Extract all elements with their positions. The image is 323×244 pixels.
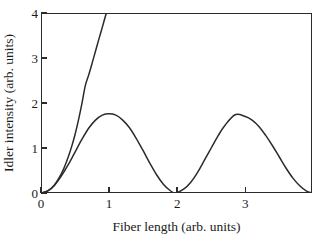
y-tick-4	[41, 12, 47, 13]
x-tick-1	[108, 187, 109, 193]
curve-exponential-gain	[41, 13, 106, 193]
chart-figure: 012301234 Fiber length (arb. units) Idle…	[0, 0, 323, 244]
x-tick-label-2: 2	[174, 197, 181, 210]
y-axis-label-wrapper: Idler intensity (arb. units)	[0, 13, 18, 193]
x-tick-label-1: 1	[106, 197, 113, 210]
x-axis-label: Fiber length (arb. units)	[41, 219, 312, 235]
x-tick-label-0: 0	[38, 197, 45, 210]
y-tick-label-3: 3	[32, 52, 39, 65]
curve-oscillatory	[41, 114, 312, 193]
x-tick-label-3: 3	[242, 197, 249, 210]
y-tick-label-1: 1	[32, 142, 39, 155]
y-tick-label-0: 0	[32, 187, 39, 200]
x-tick-3	[245, 187, 246, 193]
curve-layer	[41, 13, 312, 193]
x-tick-2	[176, 187, 177, 193]
y-tick-label-2: 2	[32, 97, 39, 110]
y-tick-0	[41, 192, 47, 193]
y-tick-2	[41, 102, 47, 103]
curve-svg	[41, 13, 312, 193]
y-tick-1	[41, 147, 47, 148]
y-tick-3	[41, 57, 47, 58]
y-tick-label-4: 4	[32, 7, 39, 20]
y-axis-label: Idler intensity (arb. units)	[1, 34, 17, 172]
